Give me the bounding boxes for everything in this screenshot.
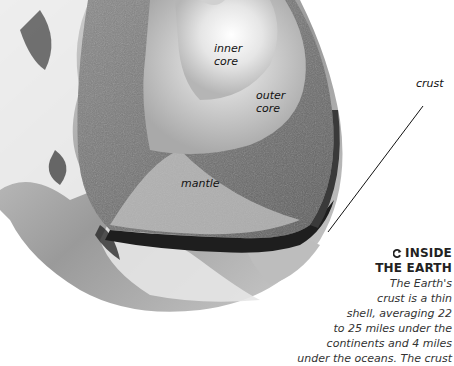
- caption-line: crust is a thin: [292, 291, 452, 306]
- caption-line: under the oceans. The crust: [292, 351, 452, 366]
- caption-line: The Earth's: [292, 276, 452, 291]
- label-outer-core-line2: core: [256, 102, 285, 115]
- caption-title-line1: INSIDE: [405, 246, 452, 260]
- caption-line: to 25 miles under the: [292, 321, 452, 336]
- caption: INSIDE THE EARTH The Earth's crust is a …: [292, 246, 452, 366]
- caption-body: The Earth's crust is a thin shell, avera…: [292, 276, 452, 366]
- label-outer-core-line1: outer: [256, 89, 285, 102]
- caption-line: shell, averaging 22: [292, 306, 452, 321]
- caption-line: continents and 4 miles: [292, 336, 452, 351]
- label-crust: crust: [416, 77, 444, 90]
- caption-title: INSIDE: [292, 246, 452, 261]
- label-inner-core-line1: inner: [214, 42, 242, 55]
- crust-leader-line: [328, 106, 423, 232]
- label-inner-core: inner core: [214, 42, 242, 68]
- label-outer-core: outer core: [256, 89, 285, 115]
- caption-title-line2: THE EARTH: [292, 261, 452, 276]
- label-mantle: mantle: [181, 177, 220, 190]
- label-inner-core-line2: core: [214, 55, 242, 68]
- rotate-arrow-icon: [393, 249, 402, 258]
